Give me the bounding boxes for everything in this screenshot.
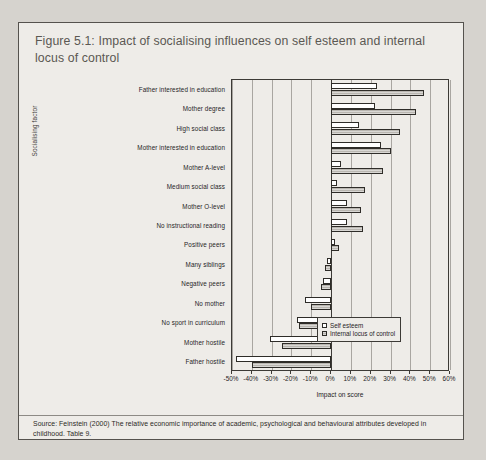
x-tick-label-40: 40%: [403, 375, 416, 382]
category-label: Mother O-level: [182, 202, 225, 209]
bar: [323, 278, 331, 284]
category-label: Medium social class: [167, 183, 225, 190]
gridline--20: [291, 80, 292, 370]
x-tick-label-20: 20%: [363, 375, 376, 382]
bar: [327, 258, 331, 264]
x-tick-label-30: 30%: [383, 375, 396, 382]
category-label: Father hostile: [185, 358, 225, 365]
bar: [331, 148, 390, 154]
bar: [331, 200, 347, 206]
bar: [331, 226, 363, 232]
x-tick--40: [251, 371, 252, 374]
figure-card: Figure 5.1: Impact of socialising influe…: [18, 22, 464, 440]
bar: [331, 180, 337, 186]
bar: [331, 187, 365, 193]
bar: [252, 362, 331, 368]
category-label: No instructional reading: [156, 222, 225, 229]
bar: [331, 245, 339, 251]
bar: [331, 161, 341, 167]
bar: [331, 83, 377, 89]
bar: [305, 297, 331, 303]
x-axis-title: Impact on score: [231, 391, 449, 398]
x-tick-30: [390, 371, 391, 374]
category-label: Many siblings: [186, 260, 225, 267]
x-tick--50: [231, 371, 232, 374]
bar: [282, 343, 332, 349]
x-tick-label-50: 50%: [423, 375, 436, 382]
category-label: No sport in curriculum: [162, 319, 225, 326]
category-label: Mother A-level: [183, 163, 225, 170]
x-tick-label-60: 60%: [443, 375, 456, 382]
bar: [331, 207, 361, 213]
bar: [325, 265, 331, 271]
x-tick--20: [290, 371, 291, 374]
x-tick-20: [370, 371, 371, 374]
legend-swatch-internal-locus-of-control: [322, 331, 327, 336]
chart-plot-area: Socialising factor Father interested in …: [35, 79, 451, 409]
bar: [331, 90, 424, 96]
legend-swatch-self-esteem: [322, 323, 327, 328]
bar: [331, 129, 400, 135]
x-tick-label-10: 10%: [344, 375, 357, 382]
x-tick-label--40: -40%: [243, 375, 258, 382]
category-label: No mother: [195, 299, 225, 306]
bar: [331, 103, 375, 109]
gridline-40: [410, 80, 411, 370]
x-tick-label--10: -10%: [303, 375, 318, 382]
bar: [321, 284, 331, 290]
method-note: Note: Impact on score reported as propor…: [33, 438, 451, 440]
category-label: Mother degree: [183, 105, 225, 112]
x-tick--30: [271, 371, 272, 374]
category-label: Father interested in education: [139, 85, 225, 92]
legend-label-self-esteem: Self esteem: [330, 322, 363, 329]
chart-legend: Self esteem Internal locus of control: [317, 317, 401, 342]
x-tick-40: [409, 371, 410, 374]
category-label: High social class: [176, 124, 225, 131]
notes-divider: [19, 415, 463, 416]
gridline--40: [252, 80, 253, 370]
bar: [331, 239, 335, 245]
x-tick-label--50: -50%: [224, 375, 239, 382]
x-tick-10: [350, 371, 351, 374]
bar: [331, 142, 381, 148]
legend-item-internal-locus-of-control: Internal locus of control: [322, 330, 395, 337]
x-tick--10: [310, 371, 311, 374]
x-tick-label-0: 0%: [325, 375, 334, 382]
legend-item-self-esteem: Self esteem: [322, 322, 395, 329]
bar: [331, 219, 347, 225]
category-label: Positive peers: [184, 241, 225, 248]
bar: [331, 122, 359, 128]
x-axis: -50%-40%-30%-20%-10%0%10%20%30%40%50%60%: [231, 371, 449, 387]
x-tick-50: [429, 371, 430, 374]
category-label: Mother interested in education: [137, 144, 225, 151]
source-note: Source: Feinstein (2000) The relative ec…: [33, 419, 451, 438]
gridline--50: [232, 80, 233, 370]
x-tick-label--20: -20%: [283, 375, 298, 382]
bar: [236, 356, 331, 362]
category-label: Negative peers: [181, 280, 225, 287]
bar: [331, 109, 416, 115]
gridline-50: [430, 80, 431, 370]
legend-label-internal-locus-of-control: Internal locus of control: [330, 330, 395, 337]
bar: [331, 168, 383, 174]
bar: [311, 304, 331, 310]
x-tick-0: [330, 371, 331, 374]
figure-title: Figure 5.1: Impact of socialising influe…: [35, 33, 447, 66]
gridline-60: [450, 80, 451, 370]
x-tick-60: [449, 371, 450, 374]
x-tick-label--30: -30%: [263, 375, 278, 382]
gridline--30: [272, 80, 273, 370]
y-axis-category-labels: Father interested in educationMother deg…: [35, 79, 229, 371]
category-label: Mother hostile: [184, 338, 225, 345]
figure-notes: Source: Feinstein (2000) The relative ec…: [33, 419, 451, 440]
